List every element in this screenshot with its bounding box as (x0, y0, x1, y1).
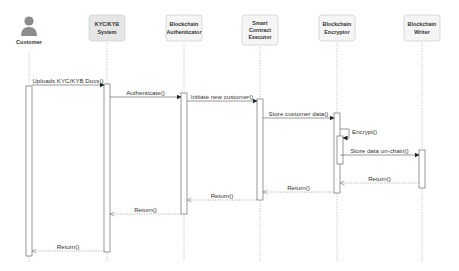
participant-label: Blockchain (408, 21, 437, 27)
message-return: Return() (340, 175, 419, 184)
message-label: Uploads KYC/KYB Docs() (32, 77, 103, 84)
activation-bar-enc (337, 136, 343, 164)
activation-bar-sce (257, 99, 263, 200)
message-call: Store data on-chain() (340, 147, 419, 156)
participant-label: System (97, 29, 116, 35)
person-icon-body (21, 27, 37, 36)
message-label: Return() (368, 175, 391, 182)
participant-label: Executor (248, 34, 272, 40)
message-label: Authenticate() (126, 89, 165, 96)
message-call: Store customer data() (263, 110, 334, 119)
participant-label: Encryptor (324, 29, 350, 35)
actor-customer: Customer (16, 16, 43, 45)
activation-bar-writer (419, 150, 425, 188)
participant-label: Authenticator (166, 29, 202, 35)
message-label: Return() (57, 243, 80, 250)
message-label: Encrypt() (352, 128, 377, 135)
activation-bar-customer (26, 86, 32, 256)
participant-kyc: KYC/KYBSystem (89, 15, 125, 41)
message-label: Store customer data() (269, 110, 329, 117)
participant-label: Customer (16, 39, 43, 45)
message-label: Store data on-chain() (350, 147, 408, 154)
message-call: Authenticate() (110, 89, 181, 98)
activation-bar-kyc (104, 84, 110, 252)
participant-label: Smart (252, 20, 267, 26)
message-return: Return() (32, 243, 104, 252)
message-return: Return() (187, 192, 257, 201)
participant-auth: BlockchainAuthenticator (166, 15, 202, 41)
participant-writer: BlockchainWriter (404, 15, 440, 41)
message-call: Uploads KYC/KYB Docs() (32, 77, 104, 86)
message-return: Return() (110, 206, 181, 215)
participant-label: Writer (414, 29, 430, 35)
participant-sce: SmartContractExecutor (242, 15, 278, 45)
message-label: Return() (287, 184, 310, 191)
sequence-diagram: CustomerKYC/KYBSystemBlockchainAuthentic… (0, 0, 459, 271)
participant-label: Contract (249, 27, 271, 33)
message-label: Initiate new customer() (191, 93, 254, 100)
participant-label: KYC/KYB (95, 21, 119, 27)
person-icon-head (24, 16, 33, 25)
participant-enc: BlockchainEncryptor (319, 15, 355, 41)
participant-label: Blockchain (170, 21, 199, 27)
message-call: Initiate new customer() (187, 93, 257, 102)
participant-label: Blockchain (323, 21, 352, 27)
activation-bar-auth (181, 93, 187, 214)
message-return: Return() (263, 184, 334, 193)
message-label: Return() (211, 192, 234, 199)
message-label: Return() (134, 206, 157, 213)
message-call: Encrypt() (340, 128, 377, 138)
